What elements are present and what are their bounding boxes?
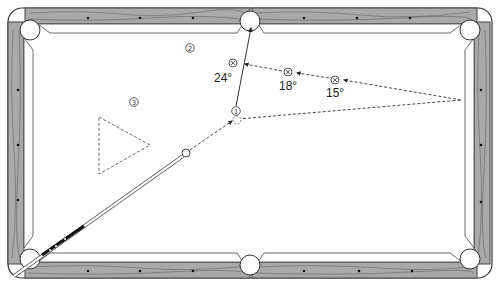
cushion-right: [465, 38, 474, 248]
table-frame: [8, 8, 492, 278]
cushion-bottom-left: [38, 253, 243, 262]
pocket-top-left: [20, 20, 40, 40]
cushion-bottom-right: [258, 253, 462, 262]
rail-left: [8, 22, 24, 264]
svg-text:3: 3: [132, 99, 136, 107]
pocket-top-middle: [240, 11, 260, 31]
rail-bottom-left: [25, 262, 250, 278]
rail-bottom-right: [252, 262, 477, 278]
svg-text:24°: 24°: [214, 71, 232, 85]
cushion-top-left: [38, 24, 243, 33]
ball-marker-1: 1: [232, 107, 241, 116]
cushion-left: [24, 38, 33, 248]
rail-top-left: [25, 8, 250, 24]
table-svg: 1 2 3 24° 18° 15°: [0, 0, 498, 286]
svg-text:18°: 18°: [279, 79, 297, 93]
pocket-top-right: [460, 20, 480, 40]
billiards-diagram: 1 2 3 24° 18° 15°: [0, 0, 498, 286]
pocket-bottom-middle: [240, 255, 260, 275]
cushion-top-right: [258, 24, 462, 33]
ghost-ball: [233, 116, 241, 124]
cue-ball: [182, 149, 190, 157]
ball-marker-2: 2: [186, 44, 195, 53]
rail-top-right: [252, 8, 477, 24]
svg-text:1: 1: [234, 108, 238, 116]
ball-marker-3: 3: [130, 98, 139, 107]
svg-text:2: 2: [188, 45, 192, 53]
svg-text:15°: 15°: [326, 86, 344, 100]
pocket-bottom-right: [460, 249, 480, 269]
rail-right: [474, 22, 490, 264]
